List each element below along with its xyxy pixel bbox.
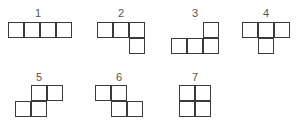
grid-cell — [179, 101, 195, 117]
grid-cell — [95, 85, 111, 101]
grid-cell — [47, 85, 63, 101]
grid-cell — [24, 22, 40, 38]
grid-cell — [258, 38, 274, 54]
shape-label: 5 — [29, 71, 49, 83]
grid-cell — [15, 101, 31, 117]
grid-cell — [31, 101, 47, 117]
grid-cell — [97, 22, 113, 38]
grid-cell — [113, 22, 129, 38]
grid-cell — [187, 38, 203, 54]
grid-cell — [127, 101, 143, 117]
grid-cell — [179, 85, 195, 101]
grid-cell — [203, 22, 219, 38]
shape-label: 1 — [28, 7, 48, 19]
grid-cell — [203, 38, 219, 54]
grid-cell — [171, 38, 187, 54]
grid-cell — [111, 101, 127, 117]
grid-cell — [258, 22, 274, 38]
grid-cell — [242, 22, 258, 38]
shape-label: 6 — [109, 71, 129, 83]
shape-label: 4 — [256, 7, 276, 19]
grid-cell — [129, 38, 145, 54]
grid-cell — [8, 22, 24, 38]
grid-cell — [31, 85, 47, 101]
grid-cell — [40, 22, 56, 38]
grid-cell — [195, 101, 211, 117]
shape-label: 2 — [111, 7, 131, 19]
shape-label: 3 — [185, 7, 205, 19]
shape-label: 7 — [185, 71, 205, 83]
grid-cell — [129, 22, 145, 38]
grid-cell — [274, 22, 290, 38]
grid-cell — [56, 22, 72, 38]
grid-cell — [111, 85, 127, 101]
grid-cell — [195, 85, 211, 101]
